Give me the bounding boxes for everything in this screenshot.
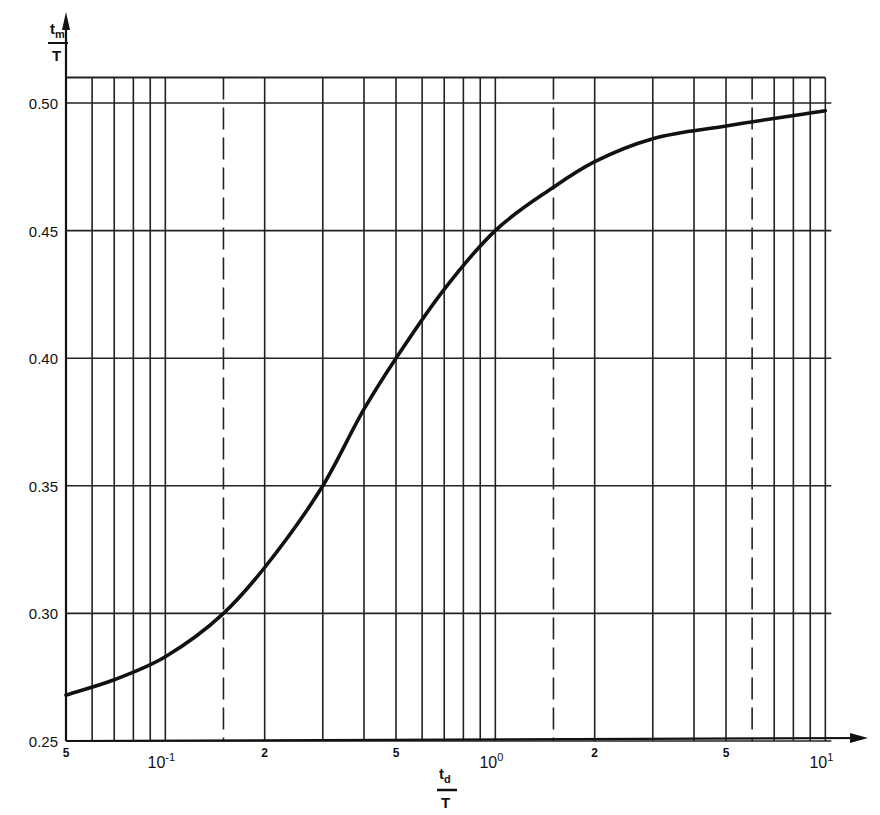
x-minor-label: 5 (393, 746, 400, 760)
x-axis-title: td T (437, 765, 457, 811)
horizontal-gridlines (66, 77, 831, 741)
x-decade-label: 100 (479, 751, 503, 771)
x-tick-labels: 510-12510025101 (63, 746, 834, 771)
data-curve (66, 111, 825, 695)
x-minor-label: 2 (591, 746, 598, 760)
y-tick-label: 0.25 (29, 733, 58, 750)
vertical-gridlines (66, 77, 825, 741)
y-tick-labels: 0.250.300.350.400.450.50 (29, 95, 58, 750)
x-minor-label: 5 (723, 746, 730, 760)
y-tick-label: 0.40 (29, 350, 58, 367)
x-decade-label: 101 (809, 751, 833, 771)
y-tick-label: 0.35 (29, 478, 58, 495)
y-tick-label: 0.30 (29, 605, 58, 622)
x-minor-label: 5 (63, 746, 70, 760)
y-tick-label: 0.45 (29, 223, 58, 240)
y-tick-label: 0.50 (29, 95, 58, 112)
x-minor-label: 2 (261, 746, 268, 760)
x-axis-arrow-icon (850, 733, 868, 743)
x-title-numerator: td (439, 765, 451, 785)
y-title-denominator: T (52, 47, 61, 64)
chart: 0.250.300.350.400.450.50 510-12510025101… (0, 0, 880, 815)
x-decade-label: 10-1 (148, 751, 176, 771)
y-title-numerator: tm (50, 20, 65, 40)
x-title-denominator: T (441, 794, 450, 811)
